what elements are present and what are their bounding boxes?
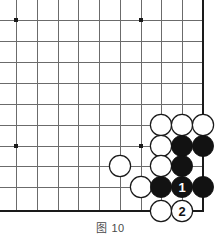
stone-disc (150, 135, 171, 156)
stone-disc (192, 176, 213, 197)
stone-disc (171, 135, 192, 156)
stone-black-1[interactable]: 1 (171, 176, 192, 197)
star-point (139, 144, 143, 148)
board-grid (0, 0, 203, 211)
stone-white[interactable] (171, 114, 192, 135)
stone-move-number: 2 (178, 204, 185, 219)
go-board: 12 (0, 0, 221, 237)
stone-white-2[interactable]: 2 (171, 200, 192, 221)
go-diagram-figure: 12 图 10 (0, 0, 221, 237)
stone-white[interactable] (150, 155, 171, 176)
star-point (14, 18, 18, 22)
stone-white[interactable] (109, 155, 130, 176)
stone-disc (150, 200, 171, 221)
star-point (139, 18, 143, 22)
stone-move-number: 1 (178, 180, 185, 195)
stone-black[interactable] (171, 135, 192, 156)
stone-disc (150, 155, 171, 176)
stone-white[interactable] (130, 176, 151, 197)
stone-disc (171, 155, 192, 176)
stone-disc (192, 135, 213, 156)
stones-layer: 12 (109, 114, 213, 221)
stone-disc (192, 114, 213, 135)
figure-caption: 图 10 (0, 222, 221, 234)
stone-white[interactable] (150, 114, 171, 135)
stone-black[interactable] (171, 155, 192, 176)
stone-disc (150, 114, 171, 135)
stone-black[interactable] (192, 176, 213, 197)
stone-white[interactable] (192, 114, 213, 135)
stone-white[interactable] (150, 135, 171, 156)
stone-disc (109, 155, 130, 176)
stone-black[interactable] (150, 176, 171, 197)
stone-white[interactable] (150, 200, 171, 221)
stone-disc (171, 114, 192, 135)
stone-black[interactable] (192, 135, 213, 156)
star-point (14, 144, 18, 148)
stone-disc (150, 176, 171, 197)
board-edge-lines (0, 0, 204, 211)
stone-disc (130, 176, 151, 197)
